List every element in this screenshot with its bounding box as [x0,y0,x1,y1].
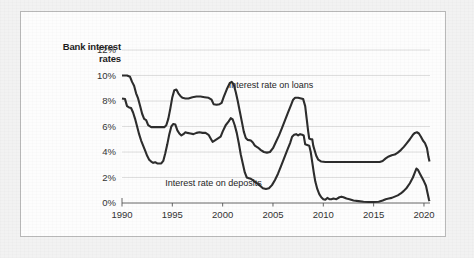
y-axis-tick-label: 10% [97,70,117,81]
chart-card: Bank interest rates 0%2%4%6%8%10%12% 199… [20,11,446,237]
y-axis-tick-label: 8% [102,95,116,106]
screenshot-page: Bank interest rates 0%2%4%6%8%10%12% 199… [0,0,474,258]
y-axis-tick-label: 0% [102,197,116,208]
x-axis-tick-label: 1995 [162,209,183,220]
x-axis-tick-label: 2015 [363,209,384,220]
x-axis-tick-label: 2010 [313,209,334,220]
y-axis-tick-label: 4% [102,146,116,157]
x-axis-tick-label: 2020 [413,209,434,220]
x-axis-tick-label: 2005 [262,209,283,220]
x-axis-tick-marks [122,203,424,207]
gridlines [122,50,430,178]
y-axis-tick-label: 12% [97,44,117,55]
x-axis-tick-label: 1990 [111,209,132,220]
series-annotation: Interest rate on deposits [165,178,262,188]
series-annotation: Interest rate on loans [229,80,314,90]
y-axis-tick-label: 6% [102,121,116,132]
y-axis-tick-labels: 0%2%4%6%8%10%12% [97,44,117,208]
y-axis-tick-label: 2% [102,172,116,183]
plot-area: 0%2%4%6%8%10%12% 19901995200020052010201… [21,12,447,238]
line-chart-svg: 0%2%4%6%8%10%12% 19901995200020052010201… [21,12,447,238]
x-axis-tick-labels: 1990199520002005201020152020 [111,209,434,220]
x-axis-tick-label: 2000 [212,209,233,220]
